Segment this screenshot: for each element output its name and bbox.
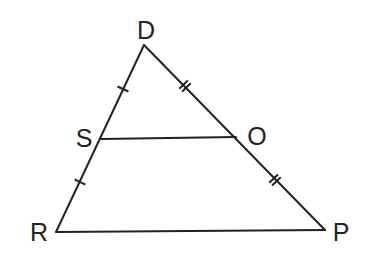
vertex-label-R: R — [30, 220, 48, 245]
point-label-S: S — [76, 126, 93, 151]
point-label-O: O — [247, 124, 266, 149]
vertex-label-D: D — [137, 18, 155, 43]
diagram-svg — [0, 0, 376, 268]
midsegment-SO — [101, 137, 236, 139]
vertex-label-P: P — [333, 220, 350, 245]
side-RP — [56, 230, 325, 232]
triangle-diagram: D R P S O — [0, 0, 376, 268]
